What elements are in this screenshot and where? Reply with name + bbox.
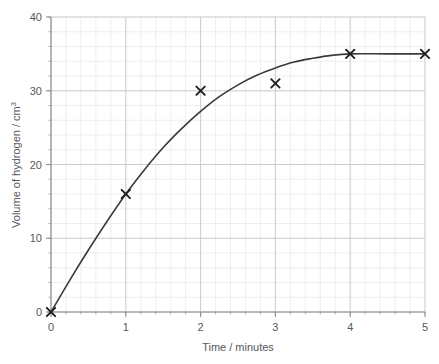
y-axis-tick-label: 30: [30, 85, 42, 97]
x-axis-tick-label: 3: [272, 321, 278, 333]
y-axis-tick-label: 10: [30, 232, 42, 244]
x-axis-title: Time / minutes: [202, 341, 274, 353]
y-axis-tick-label: 20: [30, 159, 42, 171]
x-axis-tick-label: 4: [347, 321, 353, 333]
x-axis-tick-label: 0: [48, 321, 54, 333]
y-axis-tick-label: 0: [36, 306, 42, 318]
y-axis-tick-label: 40: [30, 11, 42, 23]
volume-of-hydrogen-vs-time-chart: 012345 010203040 Time / minutes Volume o…: [0, 0, 439, 364]
x-axis-tick-label: 5: [422, 321, 428, 333]
y-axis-title: Volume of hydrogen / cm3: [9, 102, 22, 228]
chart-figure: 012345 010203040 Time / minutes Volume o…: [0, 0, 439, 364]
x-axis-tick-label: 2: [198, 321, 204, 333]
x-axis-tick-label: 1: [123, 321, 129, 333]
